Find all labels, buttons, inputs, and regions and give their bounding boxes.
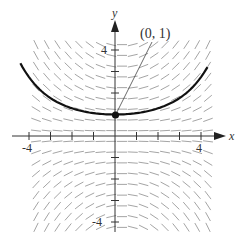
slope-segment [55,40,60,48]
slope-segment [96,75,105,78]
slope-segment [33,202,38,210]
slope-segment [182,171,190,176]
slope-segment [53,107,62,111]
y-axis-arrow-icon [111,20,119,32]
slope-segment [34,40,38,49]
slope-segment [161,182,170,187]
slope-segment [63,151,73,153]
slope-segment [171,141,181,142]
slope-segment [150,64,159,69]
slope-segment [85,86,94,90]
slope-segment [204,170,212,176]
slope-segment [64,171,73,176]
x-tick-label-4: 4 [196,141,202,155]
slope-segment [74,161,84,164]
slope-segment [139,215,148,219]
slope-segment [85,172,95,175]
slope-segment [75,85,84,90]
slope-segment [54,192,61,199]
slope-segment [55,51,61,59]
slope-segment [42,141,52,142]
slope-segment [128,205,138,207]
slope-segment [193,171,201,177]
slope-segment [44,51,49,59]
slope-segment [63,119,73,121]
slope-segment [192,130,202,131]
slope-segment [34,212,39,221]
slope-segment [75,203,83,209]
slope-segment [149,119,159,120]
slope-segment [160,119,170,121]
y-axis-label: y [111,6,118,20]
slope-segment [160,161,170,164]
slope-segment [139,53,148,57]
slope-segment [128,54,138,56]
slope-segment [74,151,84,153]
slope-segment [194,181,201,188]
slope-segment [96,108,106,109]
slope-segment [96,194,105,197]
slope-segment [203,150,212,153]
slope-segment [85,119,95,120]
slope-segment [139,119,149,120]
slope-segment [161,52,168,59]
x-axis-label: x [228,129,235,143]
slope-segment [44,223,49,232]
slope-segment [203,118,212,121]
slope-segment [139,97,149,99]
slope-segment [55,213,61,221]
slope-segment [85,162,95,164]
slope-segment [74,130,84,131]
slope-segment [161,192,169,198]
slope-segment [184,51,190,59]
slope-segment [128,76,138,78]
slope-segment [205,191,211,199]
slope-segment [149,97,159,100]
slope-segment [206,223,210,232]
slope-segment [128,98,138,99]
slope-segment [195,40,200,49]
slope-segment [44,202,50,210]
slope-segment [86,53,94,59]
slope-segment [128,43,138,45]
slope-segment [150,75,159,79]
slope-segment [53,161,62,165]
slope-segment [96,152,106,153]
slope-segment [31,118,40,121]
slope-segment [139,173,149,175]
slope-segment [204,107,213,112]
slope-segment [96,64,105,68]
slope-segment [75,224,82,231]
slope-segment [183,181,191,187]
slope-segment [33,191,39,199]
slope-segment [195,223,200,232]
slope-segment [32,95,40,101]
slope-segment [54,62,60,70]
slope-segment [85,97,95,100]
slope-segment [75,182,84,187]
slope-segment [75,41,82,48]
slope-segment [182,141,192,142]
slope-segment [128,226,138,228]
y-tick-label-neg4: -4 [92,215,102,229]
slope-segment [128,109,138,110]
slope-segment [161,203,169,209]
slope-segment [74,141,84,142]
slope-segment [42,161,51,166]
slope-segment [85,108,95,110]
slope-segment [184,213,190,221]
slope-segment [205,181,212,188]
slope-segment [55,223,60,231]
slope-segment [150,53,158,59]
slope-segment [160,141,170,142]
slope-segment [161,85,170,90]
slope-segment [64,161,73,165]
slope-segment [194,202,200,210]
slope-segment [65,202,72,209]
slope-segment [139,152,149,153]
slope-segment [172,74,180,80]
slope-segment [171,151,181,153]
slope-segment [96,97,106,99]
y-tick-label-4: 4 [101,43,107,57]
slope-segment [139,75,148,78]
